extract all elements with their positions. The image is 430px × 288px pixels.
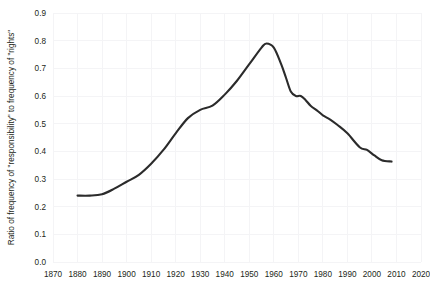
x-tick-1910: 1910 [142, 270, 161, 279]
x-tick-1960: 1960 [265, 270, 284, 279]
chart-container: 0.00.10.20.30.40.50.60.70.80.9 187018801… [0, 0, 430, 288]
x-tick-1880: 1880 [68, 270, 87, 279]
x-tick-1990: 1990 [338, 270, 357, 279]
x-tick-2000: 2000 [363, 270, 382, 279]
x-tick-1940: 1940 [216, 270, 235, 279]
x-tick-2020: 2020 [412, 270, 430, 279]
chart-background [0, 0, 430, 288]
y-tick-0.1: 0.1 [35, 230, 47, 239]
x-tick-1870: 1870 [44, 270, 63, 279]
y-tick-0.8: 0.8 [35, 37, 47, 46]
y-tick-0.4: 0.4 [35, 147, 47, 156]
x-tick-2010: 2010 [387, 270, 406, 279]
x-tick-1970: 1970 [289, 270, 308, 279]
x-tick-1920: 1920 [167, 270, 186, 279]
y-tick-0.7: 0.7 [35, 64, 47, 73]
line-chart: 0.00.10.20.30.40.50.60.70.80.9 187018801… [0, 0, 430, 288]
x-tick-1930: 1930 [191, 270, 210, 279]
y-tick-0.5: 0.5 [35, 120, 47, 129]
x-tick-1900: 1900 [117, 270, 136, 279]
y-tick-0.0: 0.0 [35, 258, 47, 267]
x-tick-1890: 1890 [93, 270, 112, 279]
x-tick-1980: 1980 [314, 270, 333, 279]
x-tick-1950: 1950 [240, 270, 259, 279]
y-tick-0.3: 0.3 [35, 175, 47, 184]
y-tick-0.9: 0.9 [35, 9, 47, 18]
y-axis-title: Ratio of frequency of "responsibility" t… [7, 30, 16, 246]
y-tick-0.6: 0.6 [35, 92, 47, 101]
y-tick-0.2: 0.2 [35, 203, 47, 212]
clipped-chart-title [60, 0, 390, 4]
